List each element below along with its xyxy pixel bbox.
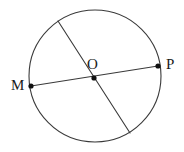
- geometry-figure: M O P: [0, 0, 184, 152]
- point-label-p: P: [166, 57, 174, 72]
- circle-diagram-canvas: [0, 0, 184, 152]
- point-dot-m: [28, 83, 33, 88]
- point-dot-o: [91, 75, 96, 80]
- point-label-o: O: [87, 57, 98, 72]
- point-label-m: M: [11, 78, 24, 93]
- point-dot-p: [155, 63, 160, 68]
